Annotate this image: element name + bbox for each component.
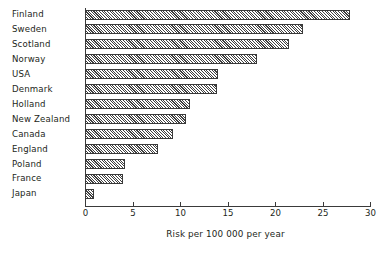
x-axis-tick-label: 0 [83,209,88,218]
x-axis-tick-label: 10 [175,209,186,218]
x-axis-tick-label: 30 [365,209,376,218]
bar [85,69,218,79]
x-axis-tick [180,202,181,207]
category-label: Scotland [12,40,51,49]
category-label: England [12,145,48,154]
bar [85,189,94,199]
category-label: Canada [12,130,46,139]
category-label: Sweden [12,25,47,34]
bar [85,24,303,34]
category-label: Denmark [12,85,53,94]
bar [85,54,257,64]
category-label: France [12,174,41,183]
x-axis-tick [228,202,229,207]
category-label: Finland [12,10,44,19]
category-label: Holland [12,100,46,109]
x-axis-tick [85,202,86,207]
bar [85,159,125,169]
category-label: New Zealand [12,115,70,124]
bar [85,129,173,139]
bar [85,10,350,20]
bar [85,174,123,184]
x-axis-tick-label: 25 [318,209,329,218]
bar [85,144,158,154]
x-axis-tick [275,202,276,207]
category-label: Norway [12,55,46,64]
x-axis-tick [370,202,371,207]
x-axis-tick-label: 5 [130,209,135,218]
category-label: USA [12,70,30,79]
bar [85,114,186,124]
bar-chart: FinlandSwedenScotlandNorwayUSADenmarkHol… [0,0,386,254]
x-axis-title: Risk per 100 000 per year [166,229,284,239]
bar [85,39,289,49]
x-axis-tick [133,202,134,207]
bar [85,99,190,109]
x-axis-tick-label: 20 [270,209,281,218]
category-label: Japan [12,189,37,198]
y-axis-line [85,8,86,206]
category-label: Poland [12,160,42,169]
x-axis-tick [323,202,324,207]
x-axis-tick-label: 15 [223,209,234,218]
bar [85,84,217,94]
